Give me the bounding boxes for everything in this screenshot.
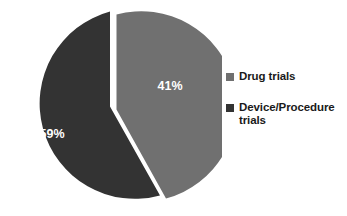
chart-legend: Drug trials Device/Procedure trials	[226, 70, 347, 145]
pie-slice-label-device-procedure-trials: 59%	[39, 127, 64, 141]
pie-svg: 41% 59%	[0, 0, 222, 216]
legend-label-device-procedure-trials: Device/Procedure trials	[239, 101, 347, 127]
legend-swatch-device-procedure-trials	[226, 104, 234, 112]
pie-slice-label-drug-trials: 41%	[157, 79, 182, 93]
legend-item-drug-trials[interactable]: Drug trials	[226, 70, 347, 83]
legend-label-drug-trials: Drug trials	[239, 70, 295, 83]
legend-swatch-drug-trials	[226, 73, 234, 81]
pie-plot-area: 41% 59%	[0, 0, 222, 216]
legend-item-device-procedure-trials[interactable]: Device/Procedure trials	[226, 101, 347, 127]
pie-chart-figure: 41% 59% Drug trials Device/Procedure tri…	[0, 0, 347, 216]
